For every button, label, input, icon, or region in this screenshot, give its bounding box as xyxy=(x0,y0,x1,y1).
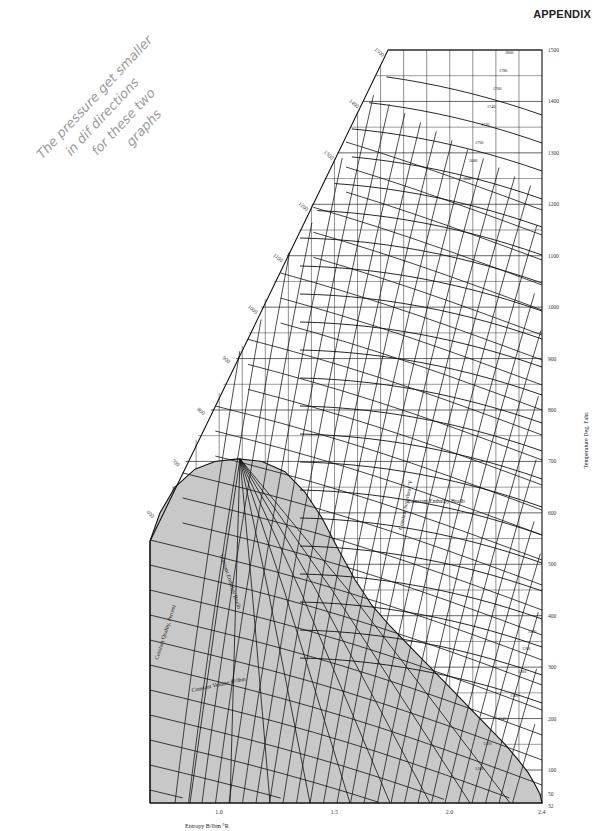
enthalpy-edge-label: 1120 xyxy=(483,741,491,746)
y-tick-label: 500 xyxy=(548,561,557,567)
enthalpy-edge-label: 1200 xyxy=(522,646,530,651)
enthalpy-edge-label: 1140 xyxy=(498,716,506,721)
y-tick-label: 1100 xyxy=(548,253,559,259)
left-edge-tick-label: 1300 xyxy=(323,149,335,161)
y-tick-label: 1400 xyxy=(548,98,559,104)
y-tick-label: 700 xyxy=(548,458,557,464)
x-tick-label: 1.0 xyxy=(215,809,223,815)
left-edge-tick-label: 600 xyxy=(145,509,155,519)
left-edge-tick-label: 1000 xyxy=(247,303,259,315)
enthalpy-label: 1800 xyxy=(505,50,513,55)
y-tick-label: 1200 xyxy=(548,201,559,207)
label-constant-enthalpy: Constant Enthalpy Btu/lb xyxy=(408,498,465,504)
ts-diagram: 3250100200300400500600700800900100011001… xyxy=(0,0,603,831)
enthalpy-edge-label: 1160 xyxy=(510,693,518,698)
enthalpy-label: 1760 xyxy=(493,86,501,91)
left-edge-tick-label: 1100 xyxy=(272,252,284,264)
x-tick-label: 1.5 xyxy=(330,809,338,815)
x-tick-label: 2.0 xyxy=(446,809,454,815)
x-axis-label: Entropy B/lbm °R xyxy=(185,823,229,829)
y-tick-label: 1300 xyxy=(548,150,559,156)
left-edge-tick-label: 900 xyxy=(221,355,231,365)
enthalpy-edge-label: 1180 xyxy=(518,669,526,674)
left-edge-tick-label: 1500 xyxy=(373,46,385,58)
left-edge-tick-label: 700 xyxy=(171,458,181,468)
y-tick-label: 900 xyxy=(548,356,557,362)
enthalpy-label: 1740 xyxy=(487,104,495,109)
left-edge-tick-label: 1200 xyxy=(297,200,309,212)
enthalpy-label: 1660 xyxy=(463,176,471,181)
left-edge-tick-label: 1400 xyxy=(348,98,360,110)
left-edge-tick-label: 800 xyxy=(196,406,206,416)
x-tick-label: 2.4 xyxy=(538,809,546,815)
y-tick-label: 1000 xyxy=(548,304,559,310)
y-tick-label: 1500 xyxy=(548,47,559,53)
y-tick-label: 100 xyxy=(548,767,557,773)
y-tick-label: 32 xyxy=(548,803,554,809)
enthalpy-label: 1780 xyxy=(499,68,507,73)
enthalpy-edge-label: 1100 xyxy=(475,766,483,771)
y-tick-label: 300 xyxy=(548,664,557,670)
enthalpy-label: 1680 xyxy=(469,158,477,163)
enthalpy-edge-label: 1220 xyxy=(528,629,536,634)
y-tick-label: 200 xyxy=(548,716,557,722)
enthalpy-label: 1720 xyxy=(481,122,489,127)
y-tick-label: 600 xyxy=(548,510,557,516)
y-tick-label: 400 xyxy=(548,613,557,619)
y-tick-label: 800 xyxy=(548,407,557,413)
y-tick-label: 50 xyxy=(548,791,554,797)
y-axis-label: Temperature Deg. Fahr. xyxy=(583,411,589,468)
enthalpy-label: 1700 xyxy=(475,140,483,145)
